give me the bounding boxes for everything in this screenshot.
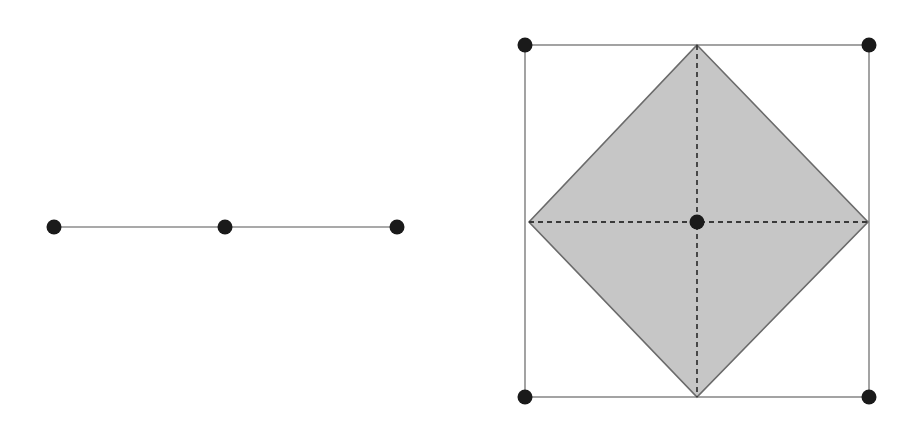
- figure-2-center-vertex: [690, 215, 705, 230]
- figure-2-diamond-in-square-group: [518, 38, 877, 405]
- figure-1-line-segment-group: [47, 220, 405, 235]
- figure-1-vertex-dot: [47, 220, 62, 235]
- geometry-figure-svg: [0, 0, 913, 422]
- figure-2-corner-vertex-dot: [518, 390, 533, 405]
- figure-canvas: [0, 0, 913, 422]
- figure-1-vertex-dot: [390, 220, 405, 235]
- figure-2-corner-vertex-dot: [862, 390, 877, 405]
- figure-2-corner-vertex-dot: [518, 38, 533, 53]
- figure-1-vertex-dot: [218, 220, 233, 235]
- figure-2-corner-vertex-dot: [862, 38, 877, 53]
